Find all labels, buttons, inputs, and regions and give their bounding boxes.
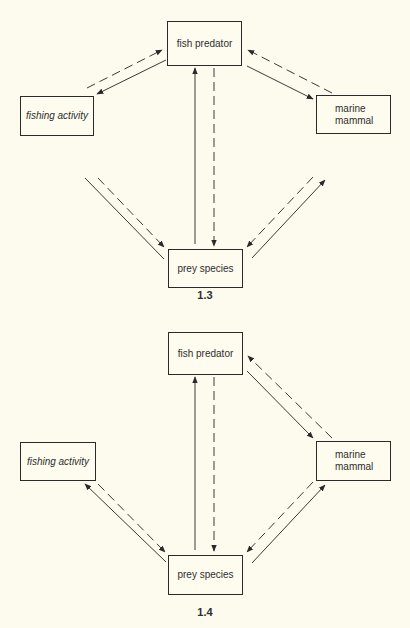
edge-1.4-mammal-to-predator-dashed bbox=[248, 356, 332, 438]
edge-1.4-mammal-to-prey-dashed bbox=[247, 482, 313, 552]
edge-1.3-fishing-to-prey-solid bbox=[85, 178, 164, 259]
edge-1.4-prey-to-mammal-solid bbox=[252, 485, 325, 563]
figure-label-1.3: 1.3 bbox=[175, 289, 235, 301]
node-1.4-marine-mammal-label: marine mammal bbox=[335, 449, 373, 473]
edge-1.4-predator-to-mammal-solid bbox=[247, 371, 313, 438]
node-1.4-marine-mammal: marine mammal bbox=[316, 441, 391, 481]
edge-1.3-fishing-to-prey-dashed bbox=[98, 178, 164, 247]
node-1.3-prey-species: prey species bbox=[168, 249, 243, 288]
node-1.4-fish-predator: fish predator bbox=[168, 332, 243, 375]
node-1.3-fishing-activity: fishing activity bbox=[20, 96, 94, 136]
node-1.4-fishing-activity: fishing activity bbox=[20, 442, 96, 481]
figure-label-1.4: 1.4 bbox=[175, 606, 235, 618]
node-1.4-prey-species: prey species bbox=[168, 555, 243, 595]
edge-1.3-predator-to-mammal-solid bbox=[247, 66, 313, 99]
edge-1.3-prey-to-mammal-solid bbox=[252, 180, 325, 258]
edge-1.3-mammal-to-predator-dashed bbox=[248, 50, 332, 93]
edge-1.4-fishing-to-prey-dashed bbox=[98, 484, 165, 552]
edge-1.3-fishing-to-predator-dashed bbox=[87, 50, 162, 88]
node-1.3-fish-predator: fish predator bbox=[167, 21, 242, 66]
edge-1.4-prey-to-fishing-solid bbox=[85, 484, 166, 562]
edge-1.3-mammal-to-prey-dashed bbox=[247, 177, 313, 247]
node-1.3-marine-mammal: marine mammal bbox=[316, 95, 391, 134]
node-1.3-marine-mammal-label: marine mammal bbox=[335, 103, 373, 127]
